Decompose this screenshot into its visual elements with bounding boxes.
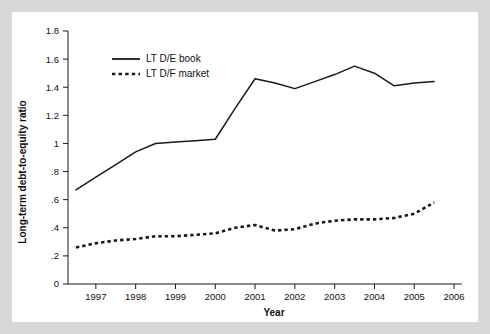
y-tick-label: .8 [51,166,59,177]
y-axis-ticks: 0.2.4.6.811.21.41.61.8 [46,25,68,289]
x-tick-label: 2004 [364,291,385,302]
y-tick-label: 0 [54,278,59,289]
y-tick-label: 1.6 [46,54,59,65]
x-axis-ticks: 1997199819992000200120022003200420052006 [85,284,464,302]
x-tick-label: 1997 [85,291,106,302]
y-tick-label: .2 [51,250,59,261]
series-line-solid [76,66,434,190]
x-tick-label: 2006 [443,291,464,302]
y-tick-label: 1.8 [46,25,59,36]
y-axis-title: Long-term debt-to-equity ratio [17,100,28,243]
y-tick-label: 1.2 [46,110,59,121]
x-tick-label: 2000 [205,291,226,302]
line-chart: 0.2.4.6.811.21.41.61.8 19971998199920002… [12,12,478,322]
x-axis-title: Year [263,307,284,318]
x-tick-label: 2003 [324,291,345,302]
x-tick-label: 1999 [165,291,186,302]
series-line-dashed [76,202,434,247]
legend-label: LT D/E book [146,53,202,64]
x-tick-label: 1998 [125,291,146,302]
y-tick-label: .6 [51,194,59,205]
x-tick-label: 2005 [404,291,425,302]
x-tick-label: 2001 [244,291,265,302]
x-tick-label: 2002 [284,291,305,302]
y-tick-label: .4 [51,222,59,233]
chart-legend: LT D/E bookLT D/F market [112,53,209,79]
y-tick-label: 1 [54,138,59,149]
y-tick-label: 1.4 [46,82,59,93]
legend-label: LT D/F market [146,68,209,79]
chart-figure: 0.2.4.6.811.21.41.61.8 19971998199920002… [12,12,478,322]
